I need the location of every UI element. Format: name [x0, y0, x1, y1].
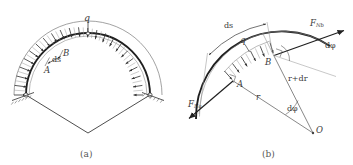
point-label-a-left: A: [44, 66, 50, 75]
element-inner-arc-b: [199, 31, 327, 116]
point-label-o: O: [316, 126, 323, 135]
force-label-fnb: FNb: [310, 19, 324, 28]
ds-label-a: ds: [52, 56, 61, 64]
point-o-marker: [312, 132, 314, 134]
q-leader-line-b: [245, 45, 250, 53]
point-label-b-right: B: [265, 58, 271, 67]
distributed-load-arrows: [14, 27, 143, 95]
radius-label-r-plus-dr: r+dr: [288, 75, 307, 83]
force-fnb-subscript: Nb: [316, 22, 324, 28]
element-arc-b: [196, 31, 330, 119]
radius-r-line: [233, 81, 314, 134]
radius-line-right: [88, 95, 150, 133]
right-angle-marker-b: [276, 49, 282, 57]
point-label-b-left: B: [63, 49, 69, 58]
force-label-fna: FNa: [188, 100, 202, 109]
angle-arc-dphi-top: [281, 46, 290, 62]
ds-label-b: ds: [224, 22, 233, 30]
load-cell-dividers-b: [228, 44, 268, 76]
load-band-arc-b: [224, 41, 270, 72]
radius-extension-b: [263, 33, 274, 55]
radius-label-r: r: [256, 93, 260, 102]
force-fna-subscript: Na: [194, 103, 202, 109]
support-left: [11, 93, 34, 105]
panel-a-group: [11, 21, 164, 133]
ds-dimension-b: [209, 24, 266, 55]
load-label-a: q: [84, 13, 90, 23]
radius-line-left: [26, 95, 88, 133]
load-label-b: q: [240, 36, 246, 45]
angle-label-dphi-top: dφ: [325, 42, 336, 50]
arch-rib: [26, 33, 150, 95]
panel-b-group: [189, 22, 344, 134]
angle-label-dphi-bottom: dφ: [287, 105, 298, 113]
point-label-a-right: A: [237, 80, 243, 89]
caption-a: (a): [80, 150, 92, 159]
caption-b: (b): [262, 150, 275, 159]
